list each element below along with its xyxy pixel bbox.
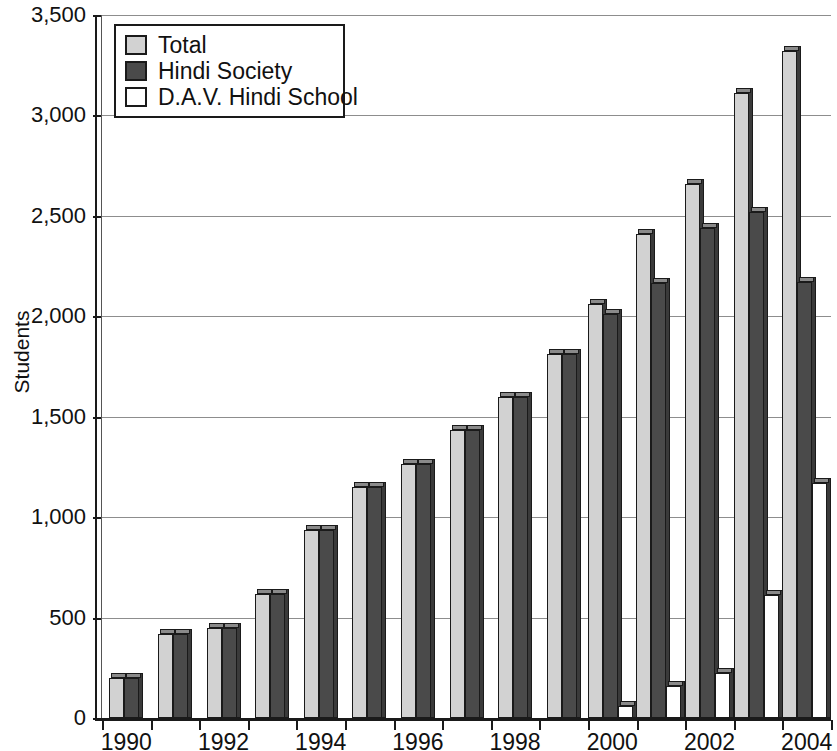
y-axis-line [95, 15, 97, 720]
gridline [102, 417, 831, 418]
bar-hindi-society-1990 [124, 678, 139, 718]
bar-hindi-society-1999 [562, 354, 577, 718]
bar-hindi-society-1998 [513, 397, 528, 718]
legend-label-dav-hindi-school: D.A.V. Hindi School [158, 86, 358, 109]
bar-hindi-society-2003 [749, 212, 764, 718]
bar-hindi-society-2004 [797, 282, 812, 718]
legend-swatch-total [125, 35, 147, 55]
x-axis-tick-label: 1990 [86, 731, 166, 751]
y-axis-tick-label: 1,500 [10, 406, 86, 428]
chart-legend: Total Hindi Society D.A.V. Hindi School [114, 24, 345, 118]
bar-hindi-society-1996 [416, 464, 431, 718]
bar-hindi-society-1992 [222, 628, 237, 718]
bar-d-a-v-hindi-school-2004 [812, 483, 827, 718]
x-axis-tick-label: 2000 [572, 731, 652, 751]
bar-total-2004 [782, 51, 797, 718]
legend-item: Total [125, 32, 333, 58]
bar-total-2001 [636, 234, 651, 718]
bar-total-1997 [450, 430, 465, 718]
bar-total-2002 [685, 184, 700, 718]
bar-hindi-society-2000 [603, 314, 618, 718]
legend-swatch-dav-hindi-school [125, 87, 147, 107]
x-axis-tick-label: 1998 [475, 731, 555, 751]
y-axis-tick-label: 3,000 [10, 104, 86, 126]
bar-total-2003 [734, 93, 749, 718]
bar-d-a-v-hindi-school-2002 [715, 673, 730, 718]
bar-total-1993 [255, 594, 270, 718]
bar-hindi-society-1993 [270, 594, 285, 718]
bar-total-1994 [304, 530, 319, 718]
y-axis-tick-label: 2,500 [10, 205, 86, 227]
y-axis-tick-label: 3,500 [10, 4, 86, 26]
legend-item: D.A.V. Hindi School [125, 84, 333, 110]
legend-swatch-hindi-society [125, 61, 147, 81]
x-axis-tick-label: 1992 [184, 731, 264, 751]
bar-d-a-v-hindi-school-2003 [764, 595, 779, 718]
gridline [102, 216, 831, 217]
y-axis-inner-line [101, 15, 102, 720]
bar-total-1990 [109, 678, 124, 718]
bar-total-1995 [352, 487, 367, 718]
bar-d-a-v-hindi-school-2000 [618, 706, 633, 718]
x-axis-tick-label: 1994 [281, 731, 361, 751]
bar-total-1998 [498, 397, 513, 718]
x-axis-tick-label: 2004 [767, 731, 837, 751]
y-axis-tick-label: 0 [10, 707, 86, 729]
legend-label-total: Total [158, 34, 207, 57]
y-axis-tick-label: 2,000 [10, 305, 86, 327]
x-axis-tick-label: 2002 [670, 731, 750, 751]
bar-hindi-society-2001 [651, 283, 666, 718]
bar-total-2000 [588, 304, 603, 718]
bar-total-1991 [158, 634, 173, 718]
y-axis-tick-label: 500 [10, 607, 86, 629]
bar-hindi-society-2002 [700, 228, 715, 718]
bar-total-1996 [401, 464, 416, 718]
bar-total-1999 [547, 354, 562, 718]
bar-hindi-society-1994 [319, 530, 334, 718]
y-axis-tick-label: 1,000 [10, 506, 86, 528]
gridline [102, 316, 831, 317]
x-axis-tick-label: 1996 [378, 731, 458, 751]
bar-d-a-v-hindi-school-2001 [666, 686, 681, 718]
bar-hindi-society-1991 [173, 634, 188, 718]
x-axis-line [95, 718, 831, 721]
gridline [102, 15, 831, 16]
legend-label-hindi-society: Hindi Society [158, 60, 292, 83]
legend-item: Hindi Society [125, 58, 333, 84]
bar-hindi-society-1995 [367, 487, 382, 718]
bar-total-1992 [207, 628, 222, 718]
bar-hindi-society-1997 [465, 430, 480, 718]
